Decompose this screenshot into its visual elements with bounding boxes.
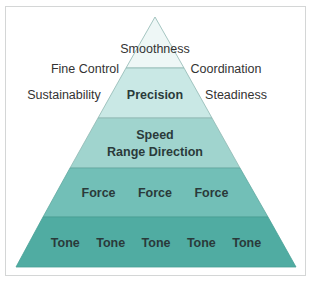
- tier-3-label-line-1: Speed: [136, 128, 174, 143]
- tier-4-label: Force Force Force: [82, 186, 229, 201]
- tier-2-label: Precision: [127, 88, 183, 103]
- tier-3-label-line-2: Range Direction: [107, 145, 203, 160]
- side-label-coordination: Coordination: [191, 62, 262, 77]
- tier-3-shape: [70, 118, 240, 168]
- side-label-sustainability: Sustainability: [27, 88, 101, 103]
- side-label-steadiness: Steadiness: [205, 88, 267, 103]
- side-label-fine-control: Fine Control: [51, 62, 119, 77]
- tier-1-label: Smoothness: [120, 42, 189, 57]
- tier-5-label: Tone Tone Tone Tone Tone: [51, 236, 261, 251]
